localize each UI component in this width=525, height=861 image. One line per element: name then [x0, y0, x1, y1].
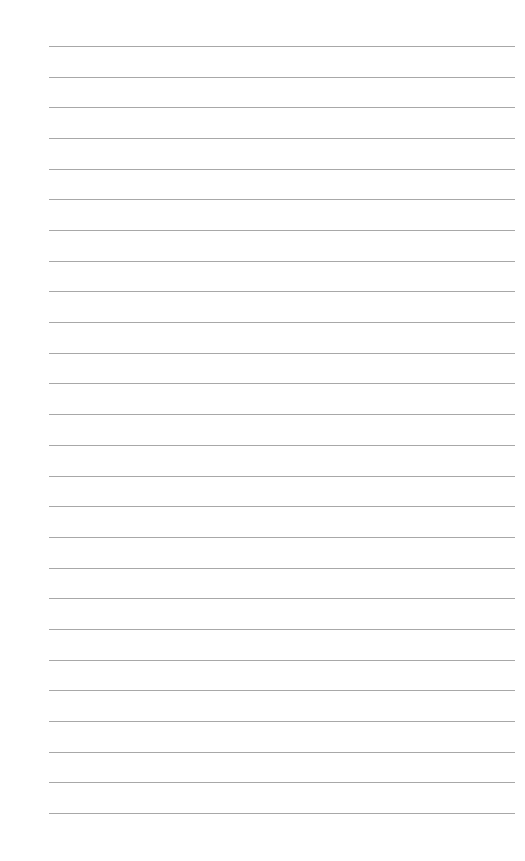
ruled-line [49, 598, 515, 599]
ruled-line [49, 322, 515, 323]
ruled-line [49, 782, 515, 783]
ruled-line [49, 353, 515, 354]
ruled-line [49, 568, 515, 569]
lined-paper-page [0, 0, 525, 861]
ruled-line [49, 261, 515, 262]
ruled-line [49, 230, 515, 231]
ruled-line [49, 690, 515, 691]
ruled-line [49, 107, 515, 108]
ruled-line [49, 660, 515, 661]
ruled-line [49, 383, 515, 384]
ruled-line [49, 506, 515, 507]
ruled-line [49, 813, 515, 814]
ruled-line [49, 46, 515, 47]
ruled-line [49, 169, 515, 170]
ruled-line [49, 629, 515, 630]
ruled-line [49, 476, 515, 477]
ruled-line [49, 291, 515, 292]
ruled-line [49, 721, 515, 722]
ruled-line [49, 138, 515, 139]
ruled-line [49, 537, 515, 538]
ruled-line [49, 414, 515, 415]
ruled-line [49, 199, 515, 200]
ruled-line [49, 77, 515, 78]
ruled-line [49, 752, 515, 753]
ruled-line [49, 445, 515, 446]
